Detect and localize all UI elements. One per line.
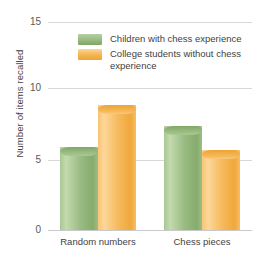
legend-item-college: College students without chess experienc… [78,48,258,71]
bar-chart: Number of items recalled 15 10 5 0 [0,0,258,260]
y-axis-title: Number of items recalled [14,34,25,174]
y-tick-label-5: 5 [35,154,41,165]
gridline-10: 10 [48,88,252,89]
legend-label-children: Children with chess experience [110,33,241,45]
chart-legend: Children with chess experience College s… [78,33,258,74]
y-tick-label-0: 0 [35,224,41,235]
green-swatch-icon [78,34,102,45]
orange-swatch-icon [78,49,102,60]
bar-chess-pieces-college [202,150,240,230]
legend-label-college: College students without chess experienc… [110,48,258,71]
gridline-15: 15 [48,22,252,23]
bar-chess-pieces-children [164,126,202,230]
gridline-0-baseline: 0 [48,230,252,231]
bar-cap [60,147,98,156]
bar-cap [202,150,240,159]
bar-cap [164,126,202,135]
bar-random-numbers-college [98,105,136,230]
legend-item-children: Children with chess experience [78,33,258,45]
bar-random-numbers-children [60,147,98,230]
bar-cap [98,105,136,114]
y-tick-label-10: 10 [30,82,41,93]
x-tick-label-random-numbers: Random numbers [48,236,148,247]
y-tick-label-15: 15 [30,16,41,27]
x-tick-label-chess-pieces: Chess pieces [152,236,252,247]
